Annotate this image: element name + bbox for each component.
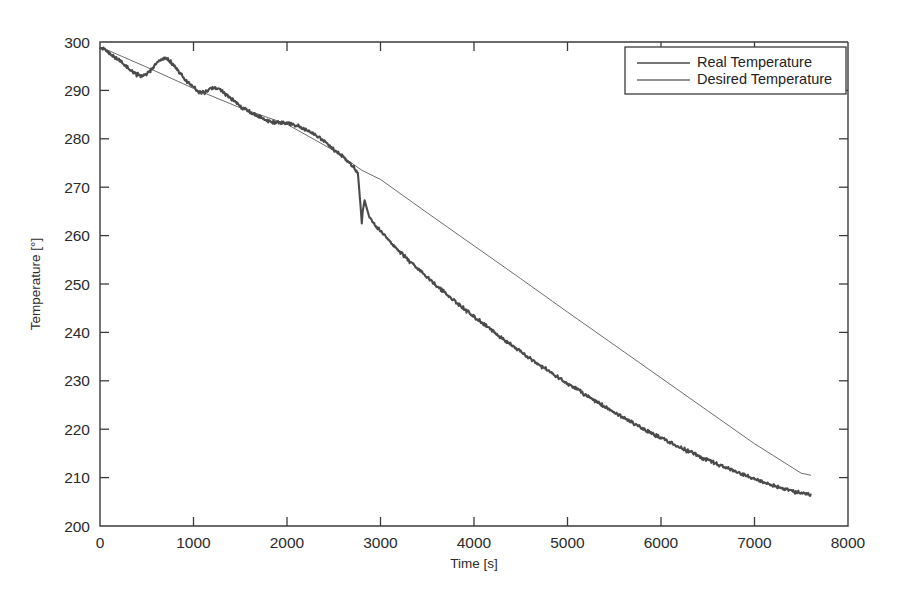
y-tick-label: 220 — [64, 421, 90, 438]
y-tick-label: 300 — [64, 34, 90, 51]
y-tick-label: 250 — [64, 276, 90, 293]
x-tick-label: 8000 — [831, 534, 866, 551]
x-tick-label: 1000 — [176, 534, 211, 551]
y-axis-title: Temperature [°] — [28, 238, 43, 330]
y-tick-label: 270 — [64, 179, 90, 196]
x-tick-label: 2000 — [270, 534, 305, 551]
x-axis-title: Time [s] — [450, 556, 498, 571]
y-tick-label: 230 — [64, 372, 90, 389]
x-tick-label: 0 — [96, 534, 105, 551]
y-tick-label: 200 — [64, 518, 90, 535]
legend-label-real-temperature: Real Temperature — [697, 54, 812, 70]
y-tick-label: 210 — [64, 469, 90, 486]
y-tick-label: 240 — [64, 324, 90, 341]
legend-label-desired-temperature: Desired Temperature — [697, 71, 832, 87]
chart-figure: 200210220230240250260270280290300 010002… — [0, 0, 901, 597]
y-tick-label: 290 — [64, 82, 90, 99]
x-tick-label: 4000 — [457, 534, 492, 551]
chart-legend: Real Temperature Desired Temperature — [625, 47, 846, 94]
x-tick-label: 5000 — [550, 534, 585, 551]
x-tick-label: 7000 — [737, 534, 772, 551]
temperature-plot: 200210220230240250260270280290300 010002… — [0, 0, 901, 597]
y-tick-label: 280 — [64, 130, 90, 147]
x-tick-label: 6000 — [644, 534, 679, 551]
y-tick-label: 260 — [64, 227, 90, 244]
x-tick-label: 3000 — [363, 534, 398, 551]
